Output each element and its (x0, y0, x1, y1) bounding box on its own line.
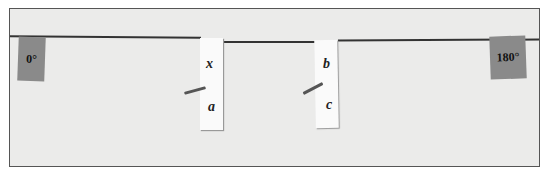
tag-0-degrees: 0° (17, 37, 46, 82)
label-a: a (208, 99, 215, 115)
label-x: x (206, 56, 213, 72)
label-c: c (326, 97, 332, 113)
tag-180-degrees: 180° (489, 35, 526, 79)
string-middle (222, 41, 316, 43)
photo-frame (9, 8, 540, 167)
paper-strip-left (200, 38, 223, 130)
label-b: b (323, 56, 330, 72)
